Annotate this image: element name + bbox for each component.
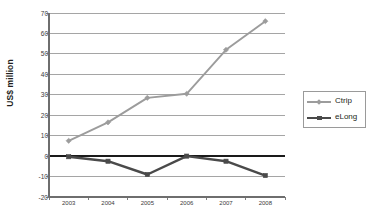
x-axis-tick-label: 2006 <box>167 200 207 206</box>
data-point <box>106 159 110 163</box>
data-point <box>67 155 71 159</box>
series-line-elong <box>69 156 266 175</box>
legend-swatch-ctrip <box>307 100 331 104</box>
legend-label-ctrip: Ctrip <box>335 96 352 105</box>
x-axis-tick-label: 2004 <box>88 200 128 206</box>
data-point <box>145 172 149 176</box>
series-line-ctrip <box>69 21 266 141</box>
x-axis-tick-label: 2008 <box>245 200 285 206</box>
x-axis-tick-label: 2003 <box>49 200 89 206</box>
x-axis-tick-label: 2005 <box>127 200 167 206</box>
legend-swatch-elong <box>307 116 331 120</box>
line-chart: US$ million 706050403020100-10-20 Ctrip … <box>0 0 376 222</box>
square-marker-icon <box>317 116 322 121</box>
data-point <box>185 154 189 158</box>
x-axis-tick-label: 2007 <box>206 200 246 206</box>
legend: Ctrip eLong <box>303 91 366 128</box>
legend-label-elong: eLong <box>335 112 357 121</box>
diamond-marker-icon <box>316 99 322 105</box>
legend-item-ctrip[interactable]: Ctrip <box>307 94 365 110</box>
legend-item-elong[interactable]: eLong <box>307 110 365 126</box>
data-point <box>263 173 267 177</box>
data-point <box>224 159 228 163</box>
